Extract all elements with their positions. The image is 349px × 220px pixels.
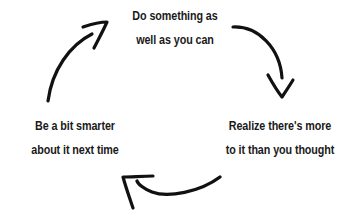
cycle-arrows — [0, 0, 349, 220]
arrow-top-to-right-icon — [233, 27, 293, 97]
arrow-right-to-left-icon — [123, 176, 220, 208]
arrow-left-to-top-icon — [48, 22, 107, 101]
